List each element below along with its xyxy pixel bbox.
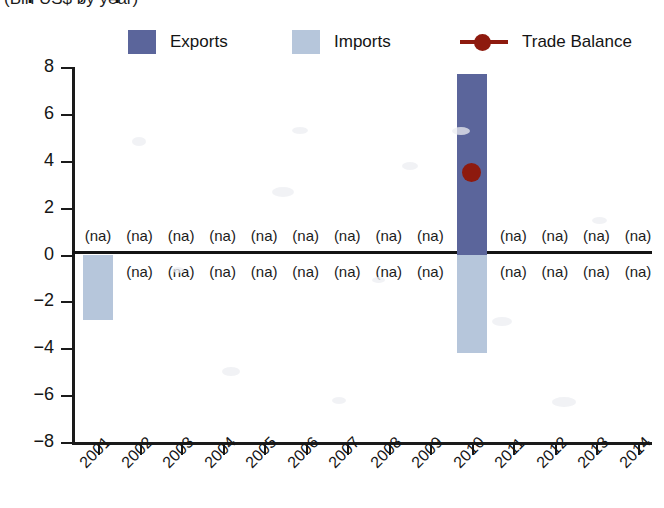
y-axis-tick-label: −4	[33, 337, 54, 358]
scan-speckle	[332, 397, 346, 404]
legend-label-trade-balance: Trade Balance	[522, 32, 632, 52]
y-axis-tick-label: 0	[44, 244, 54, 265]
y-axis-tick: −4	[61, 348, 73, 350]
na-label-exports: (na)	[168, 227, 195, 244]
plot-area: 86420−2−4−6−8 20012002200320042005200620…	[72, 67, 652, 445]
scan-speckle	[492, 317, 512, 326]
y-axis-tick-label: 6	[44, 103, 54, 124]
x-axis-tick-label: 2011	[491, 434, 529, 472]
scan-speckle	[172, 267, 184, 273]
bar-imports	[457, 255, 487, 353]
chart-title-units: (Bln US$ by year)	[4, 0, 138, 9]
y-axis-tick-label: 4	[44, 150, 54, 171]
y-axis-tick-label: −6	[33, 384, 54, 405]
scan-speckle	[272, 187, 294, 197]
x-axis-tick-label: 2007	[325, 433, 363, 471]
x-axis-tick-label: 2001	[76, 433, 114, 471]
na-label-exports: (na)	[625, 227, 652, 244]
chart-legend: Exports Imports Trade Balance	[0, 28, 664, 58]
na-label-exports: (na)	[251, 227, 278, 244]
na-label-exports: (na)	[85, 227, 112, 244]
x-axis-tick-label: 2004	[201, 433, 239, 471]
scan-speckle	[402, 162, 418, 170]
scan-speckle	[132, 137, 146, 146]
na-label-exports: (na)	[334, 227, 361, 244]
y-axis-tick: 2	[61, 208, 73, 210]
na-label-exports: (na)	[209, 227, 236, 244]
x-axis-tick-label: 2009	[408, 433, 446, 471]
chart-title-block: Exports, Imports and Trade Balance (Bln …	[2, 0, 642, 22]
y-axis-tick: −6	[61, 395, 73, 397]
na-label-imports: (na)	[251, 263, 278, 280]
na-label-imports: (na)	[583, 263, 610, 280]
na-label-imports: (na)	[292, 263, 319, 280]
x-axis-tick-label: 2010	[450, 433, 488, 471]
zero-baseline	[72, 251, 652, 254]
y-axis-tick-label: 8	[44, 56, 54, 77]
na-label-exports: (na)	[500, 227, 527, 244]
y-axis-tick-label: 2	[44, 197, 54, 218]
na-label-exports: (na)	[375, 227, 402, 244]
x-axis-tick-label: 2006	[284, 433, 322, 471]
x-axis-tick-label: 2008	[367, 433, 405, 471]
na-label-imports: (na)	[126, 263, 153, 280]
legend-label-imports: Imports	[334, 32, 391, 52]
x-axis-tick-label: 2012	[533, 433, 571, 471]
y-axis-tick: 4	[61, 161, 73, 163]
legend-item-trade-balance: Trade Balance	[460, 28, 632, 56]
y-axis-tick: 8	[61, 67, 73, 69]
y-axis-tick: 0	[61, 255, 73, 257]
x-axis-tick-label: 2005	[242, 433, 280, 471]
scan-speckle	[292, 127, 308, 134]
y-axis-tick-label: −8	[33, 431, 54, 452]
na-label-exports: (na)	[583, 227, 610, 244]
x-axis-tick-label: 2013	[574, 433, 612, 471]
scan-speckle	[372, 277, 385, 283]
na-label-exports: (na)	[542, 227, 569, 244]
na-label-imports: (na)	[542, 263, 569, 280]
legend-item-exports: Exports	[128, 28, 228, 56]
na-label-exports: (na)	[126, 227, 153, 244]
trade-balance-chart: Exports, Imports and Trade Balance (Bln …	[0, 0, 664, 508]
y-axis-tick: −8	[61, 442, 73, 444]
y-axis-tick-label: −2	[33, 290, 54, 311]
bar-imports	[83, 255, 113, 321]
na-label-imports: (na)	[334, 263, 361, 280]
na-label-imports: (na)	[625, 263, 652, 280]
legend-label-exports: Exports	[170, 32, 228, 52]
legend-swatch-imports-icon	[292, 30, 320, 54]
scan-speckle	[452, 127, 470, 135]
na-label-exports: (na)	[292, 227, 319, 244]
na-label-imports: (na)	[417, 263, 444, 280]
legend-item-imports: Imports	[292, 28, 391, 56]
x-axis-tick-label: 2003	[159, 433, 197, 471]
y-axis-tick: 6	[61, 114, 73, 116]
scan-speckle	[222, 367, 240, 376]
legend-line-dot-trade-balance-icon	[460, 30, 508, 54]
na-label-imports: (na)	[500, 263, 527, 280]
x-axis-tick-label: 2014	[616, 433, 654, 471]
legend-swatch-exports-icon	[128, 30, 156, 54]
y-axis-tick: −2	[61, 301, 73, 303]
x-axis-tick-label: 2002	[118, 433, 156, 471]
na-label-imports: (na)	[209, 263, 236, 280]
na-label-exports: (na)	[417, 227, 444, 244]
scan-speckle	[592, 217, 607, 224]
scan-speckle	[552, 397, 576, 407]
